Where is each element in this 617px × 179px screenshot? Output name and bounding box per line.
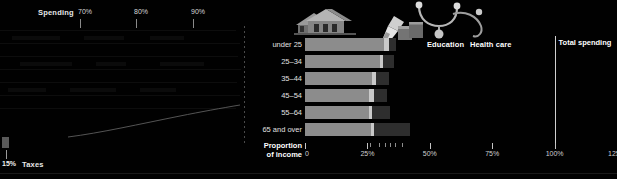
x-axis-tick-label: 100% bbox=[546, 150, 564, 157]
x-axis-tick-label: 0 bbox=[305, 150, 309, 157]
bottom-rule bbox=[0, 173, 617, 174]
spending-tick-mark-90 bbox=[193, 19, 194, 28]
bar-segment-health-care[interactable] bbox=[376, 72, 388, 85]
x-axis-tick bbox=[492, 143, 493, 149]
x-axis-title-line2: of income bbox=[246, 151, 302, 160]
bar-segment-housing[interactable] bbox=[305, 89, 369, 102]
spending-tick-label-70: 70% bbox=[78, 8, 92, 15]
bars-plot-area bbox=[305, 38, 617, 143]
spending-tick-label-80: 80% bbox=[134, 8, 148, 15]
bar-segment-housing[interactable] bbox=[305, 123, 371, 136]
age-label-under-25: under 25 bbox=[272, 38, 302, 51]
age-label-25-34: 25–34 bbox=[281, 55, 302, 68]
spending-axis-label: Spending bbox=[38, 8, 74, 17]
age-group-labels: under 25 25–34 35–44 45–54 55–64 65 and … bbox=[246, 38, 302, 143]
stethoscope-icon bbox=[409, 0, 491, 40]
x-axis-minor-tick bbox=[395, 143, 396, 147]
age-label-45-54: 45–54 bbox=[281, 89, 302, 102]
x-axis-tick bbox=[430, 143, 431, 149]
bar-segment-health-care[interactable] bbox=[374, 123, 410, 136]
total-spending-reference-line bbox=[555, 36, 556, 146]
x-axis-tick-label: 75% bbox=[485, 150, 499, 157]
x-axis-tick-label: 50% bbox=[423, 150, 437, 157]
x-axis-minor-tick bbox=[370, 143, 371, 147]
infographic-root: Spending 70% 80% 90% 15% Taxes bbox=[0, 0, 617, 179]
spending-tick-mark-80 bbox=[136, 19, 137, 28]
x-axis-tick bbox=[305, 143, 306, 149]
spending-tick-mark-70 bbox=[80, 19, 81, 28]
bar-segment-health-care[interactable] bbox=[372, 106, 389, 119]
spending-tick-label-90: 90% bbox=[191, 8, 205, 15]
x-axis-minor-tick bbox=[379, 143, 380, 147]
spending-breakdown-chart: Housing Education Health care under 25 2… bbox=[246, 0, 617, 179]
age-label-35-44: 35–44 bbox=[281, 72, 302, 85]
bar-segment-housing[interactable] bbox=[305, 55, 380, 68]
panel-divider bbox=[244, 26, 245, 146]
illustration-row bbox=[246, 0, 617, 40]
taxes-tick-mark bbox=[6, 150, 7, 159]
bar-segment-health-care[interactable] bbox=[383, 55, 394, 68]
x-axis-tick-label: 25% bbox=[360, 150, 374, 157]
x-axis-title: Proportion of income bbox=[246, 142, 302, 159]
bar-segment-housing[interactable] bbox=[305, 72, 372, 85]
house-icon bbox=[294, 4, 356, 38]
x-axis: Proportion of income 025%50%75%100%125% bbox=[246, 143, 617, 173]
bar-row[interactable] bbox=[305, 38, 396, 51]
bar-segment-housing[interactable] bbox=[305, 106, 369, 119]
bar-segment-health-care[interactable] bbox=[374, 89, 388, 102]
bar-row[interactable] bbox=[305, 89, 387, 102]
age-label-55-64: 55–64 bbox=[281, 106, 302, 119]
age-label-65-and-over: 65 and over bbox=[262, 123, 302, 136]
x-axis-minor-tick bbox=[385, 143, 386, 147]
bar-row[interactable] bbox=[305, 123, 410, 136]
bar-segment-housing[interactable] bbox=[305, 38, 384, 51]
x-axis-tick bbox=[555, 143, 556, 149]
taxes-axis-label: Taxes bbox=[22, 160, 44, 169]
spending-trend-curve bbox=[0, 0, 246, 179]
taxes-swatch bbox=[2, 137, 9, 148]
bar-row[interactable] bbox=[305, 55, 394, 68]
x-axis-tick bbox=[367, 143, 368, 149]
x-axis-tick-label: 125% bbox=[608, 150, 617, 157]
total-spending-label: Total spending bbox=[559, 38, 612, 47]
spending-vs-taxes-panel: Spending 70% 80% 90% 15% Taxes bbox=[0, 0, 246, 179]
bar-row[interactable] bbox=[305, 106, 390, 119]
bar-segment-health-care[interactable] bbox=[389, 38, 396, 51]
x-axis-minor-tick bbox=[402, 143, 403, 147]
bar-row[interactable] bbox=[305, 72, 389, 85]
taxes-tick-label: 15% bbox=[2, 160, 16, 167]
x-axis-minor-tick bbox=[390, 143, 391, 147]
